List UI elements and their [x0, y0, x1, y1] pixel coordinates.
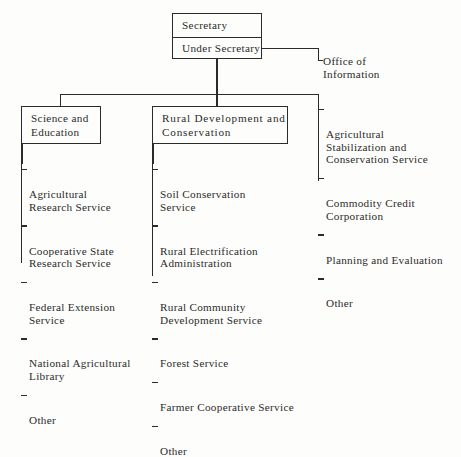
list-item-label: Cooperative State Research Service [29, 245, 114, 270]
branch-tick-icon [152, 382, 158, 383]
list-item: National Agricultural Library [21, 332, 146, 382]
office-of-information-block: Office of Information [318, 55, 448, 80]
list-item-label: Soil Conservation Service [160, 188, 246, 213]
list-item: Commodity Credit Corporation [318, 172, 458, 222]
branch-tick-icon [21, 225, 27, 226]
connector-science-box-to-list [21, 144, 22, 164]
list-item-label: Planning and Evaluation [326, 254, 443, 266]
secretary-label: Secretary [182, 18, 227, 32]
list-item-label: Rural Community Development Service [160, 301, 262, 326]
connector-trunk-vertical [216, 59, 217, 95]
connector-distribution-bar [60, 94, 319, 95]
branch-tick-icon [152, 338, 158, 339]
branch-tick-icon [21, 282, 27, 283]
list-item-label: Other [326, 297, 353, 309]
branch-tick-icon [152, 225, 158, 226]
under-secretary-row: Under Secretary [173, 37, 261, 60]
science-and-education-list: Agricultural Research Service Cooperativ… [21, 163, 146, 426]
list-item: Farmer Cooperative Service [152, 376, 302, 414]
branch-tick-icon [152, 426, 158, 427]
list-item-label: Other [160, 445, 187, 457]
branch-tick-icon [21, 395, 27, 396]
list-item-label: Agricultural Research Service [29, 188, 111, 213]
list-item: Forest Service [152, 332, 302, 370]
list-item: Soil Conservation Service [152, 163, 302, 213]
connector-drop-science [60, 94, 61, 107]
connector-under-secretary-to-office [262, 48, 319, 49]
list-item: Agricultural Research Service [21, 163, 146, 213]
branch-tick-icon [318, 109, 324, 110]
list-item: Rural Electrification Administration [152, 219, 302, 269]
list-item-label: Agricultural Stabilization and Conservat… [326, 128, 428, 165]
office-of-information-label: Office of Information [318, 55, 448, 80]
science-and-education-label: Science and Education [31, 111, 89, 140]
rural-development-row: Rural Development and Conservation [153, 107, 287, 143]
list-item: Agricultural Stabilization and Conservat… [318, 103, 458, 166]
branch-tick-icon [21, 169, 27, 170]
rural-development-and-conservation-box: Rural Development and Conservation [152, 106, 288, 144]
branch-tick-icon [318, 234, 324, 235]
list-item: Rural Community Development Service [152, 276, 302, 326]
list-item-label: Commodity Credit Corporation [326, 197, 415, 222]
branch-tick-icon [318, 278, 324, 279]
list-item-label: Other [29, 414, 56, 426]
science-and-education-box: Science and Education [21, 106, 101, 144]
secretary-box: Secretary Under Secretary [172, 13, 262, 59]
list-item: Other [318, 272, 458, 310]
list-item-label: National Agricultural Library [29, 357, 131, 382]
other-agencies-list: Agricultural Stabilization and Conservat… [318, 103, 458, 310]
list-item-label: Federal Extension Service [29, 301, 115, 326]
science-and-education-row: Science and Education [22, 107, 100, 143]
branch-tick-icon [152, 282, 158, 283]
list-item: Cooperative State Research Service [21, 219, 146, 269]
list-item: Federal Extension Service [21, 276, 146, 326]
rural-development-list: Soil Conservation Service Rural Electrif… [152, 163, 302, 457]
branch-tick-icon [21, 338, 27, 339]
secretary-row: Secretary [173, 14, 261, 37]
list-item-label: Farmer Cooperative Service [160, 401, 294, 413]
list-item: Other [152, 420, 302, 457]
branch-tick-icon [152, 169, 158, 170]
connector-rural-box-to-list [152, 144, 153, 164]
list-item: Other [21, 389, 146, 427]
rural-development-label: Rural Development and Conservation [162, 111, 286, 140]
under-secretary-label: Under Secretary [182, 41, 260, 55]
list-item-label: Rural Electrification Administration [160, 245, 258, 270]
connector-drop-rural [216, 94, 217, 107]
branch-tick-icon [318, 178, 324, 179]
list-item: Planning and Evaluation [318, 228, 458, 266]
list-item-label: Forest Service [160, 357, 229, 369]
